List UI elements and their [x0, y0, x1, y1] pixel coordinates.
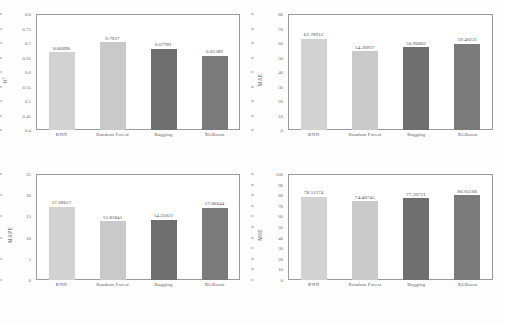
bar-cell: 78.51374 — [288, 174, 339, 280]
y-tickmark-mae-0 — [251, 130, 255, 131]
y-tick-mae-8: 80 — [278, 12, 283, 17]
y-tick-r2-0: 0.4 — [25, 128, 31, 133]
y-tick-mape-0: 0 — [29, 278, 31, 283]
panel-grid: R2 0.40.450.50.550.60.650.70.750.8 0.668… — [0, 0, 505, 310]
x-tick-label-xgboost: XGBoost — [442, 132, 493, 146]
y-tickmark-r2-7 — [0, 28, 2, 29]
y-tick-r2-5: 0.65 — [23, 55, 31, 60]
bar-cell: 0.66898 — [36, 14, 87, 130]
bar-value-label: 56.96863 — [406, 41, 426, 46]
y-tick-r2-3: 0.55 — [23, 84, 31, 89]
y-tickmark-r2-3 — [0, 86, 2, 87]
bar-value-label: 17.28657 — [52, 200, 72, 205]
y-tick-mape-3: 15 — [26, 214, 31, 219]
y-tick-r2-6: 0.7 — [25, 41, 31, 46]
bar-value-label: 17.06644 — [205, 201, 225, 206]
bar-mape-0: 17.28657 — [49, 207, 75, 280]
bar-mae-0: 62.78912 — [301, 39, 327, 130]
y-tickmark-mape-4 — [0, 195, 2, 196]
x-tick-label-xgboost: XGBoost — [442, 282, 493, 296]
y-tickmark-r2-8 — [0, 14, 2, 15]
bar-value-label: 14.23021 — [154, 213, 174, 218]
y-tick-r2-8: 0.8 — [25, 12, 31, 17]
bar-cell: 0.7027 — [87, 14, 138, 130]
y-tickmark-mae-3 — [251, 86, 255, 87]
chart-panel-mape: MAPE 0510152025 17.2865713.8584114.23021… — [0, 160, 252, 310]
y-tick-mae-6: 60 — [278, 41, 283, 46]
bar-mae-3: 59.40231 — [454, 44, 480, 130]
bar-value-label: 80.05106 — [458, 189, 478, 194]
bar-cell: 56.96863 — [391, 14, 442, 130]
bar-cell: 17.28657 — [36, 174, 87, 280]
chart-panel-r2: R2 0.40.450.50.550.60.650.70.750.8 0.668… — [0, 0, 252, 160]
x-tick-label-random-forest: Random Forest — [339, 132, 390, 146]
x-tick-label-bagging: Bagging — [391, 282, 442, 296]
x-axis-labels-mae: KNNRandom ForestBaggingXGBoost — [288, 132, 493, 146]
y-tickmark-mape-0 — [0, 280, 2, 281]
plot-area-mae: 01020304050607080 62.7891254.3093756.968… — [288, 14, 493, 130]
bar-mse-1: 74.40745 — [352, 201, 378, 280]
y-tick-mae-3: 30 — [278, 84, 283, 89]
bar-value-label: 0.65589 — [206, 49, 223, 54]
bar-value-label: 0.7027 — [105, 36, 119, 41]
y-tick-mse-5: 50 — [278, 225, 283, 230]
y-tick-mse-3: 30 — [278, 246, 283, 251]
y-tickmark-mape-1 — [0, 258, 2, 259]
bar-mape-3: 17.06644 — [202, 208, 228, 280]
bar-series-mae: 62.7891254.3093756.9686359.40231 — [288, 14, 493, 130]
y-tickmark-mae-2 — [251, 101, 255, 102]
chart-panel-mae: MAE 01020304050607080 62.7891254.3093756… — [252, 0, 505, 160]
y-tickmark-r2-2 — [0, 101, 2, 102]
y-tick-mse-6: 60 — [278, 214, 283, 219]
bar-mse-2: 77.20721 — [403, 198, 429, 280]
y-tick-mse-7: 70 — [278, 203, 283, 208]
y-tickmark-mae-5 — [251, 57, 255, 58]
x-tick-label-random-forest: Random Forest — [87, 132, 138, 146]
figure-canvas: R2 0.40.450.50.550.60.650.70.750.8 0.668… — [0, 0, 505, 324]
y-tickmark-mse-1 — [251, 269, 255, 270]
y-tick-mse-2: 20 — [278, 256, 283, 261]
x-tick-label-xgboost: XGBoost — [189, 132, 240, 146]
y-tickmark-r2-4 — [0, 72, 2, 73]
bar-mape-2: 14.23021 — [151, 220, 177, 280]
y-tick-mse-9: 90 — [278, 182, 283, 187]
y-tick-mape-5: 25 — [26, 172, 31, 177]
y-tickmark-r2-1 — [0, 115, 2, 116]
bar-r2-0: 0.66898 — [49, 52, 75, 130]
y-tick-mae-2: 20 — [278, 99, 283, 104]
y-tickmark-mae-7 — [251, 28, 255, 29]
y-tickmark-mape-2 — [0, 237, 2, 238]
bar-value-label: 62.78912 — [304, 32, 324, 37]
y-tickmark-mse-0 — [251, 280, 255, 281]
y-tick-mse-10: 100 — [276, 172, 283, 177]
y-tickmark-mape-3 — [0, 216, 2, 217]
x-tick-label-bagging: Bagging — [138, 132, 189, 146]
bar-cell: 0.67991 — [138, 14, 189, 130]
y-tickmark-mape-5 — [0, 174, 2, 175]
y-tickmark-mae-8 — [251, 14, 255, 15]
y-tick-mse-1: 10 — [278, 267, 283, 272]
x-tick-label-knn: KNN — [288, 282, 339, 296]
y-tick-mape-1: 5 — [29, 256, 31, 261]
y-tick-mae-1: 10 — [278, 113, 283, 118]
plot-area-mse: 0102030405060708090100 78.5137474.407457… — [288, 174, 493, 280]
y-tick-mae-0: 0 — [281, 128, 283, 133]
bar-value-label: 77.20721 — [406, 192, 426, 197]
plot-area-r2: 0.40.450.50.550.60.650.70.750.8 0.668980… — [36, 14, 240, 130]
y-tickmark-r2-5 — [0, 57, 2, 58]
x-tick-label-knn: KNN — [36, 282, 87, 296]
bar-mae-2: 56.96863 — [403, 47, 429, 130]
bar-cell: 0.65589 — [189, 14, 240, 130]
y-tickmark-mse-6 — [251, 216, 255, 217]
y-tickmark-r2-6 — [0, 43, 2, 44]
bar-cell: 13.85841 — [87, 174, 138, 280]
y-tickmark-mse-8 — [251, 195, 255, 196]
bar-value-label: 74.40745 — [355, 195, 375, 200]
y-tickmark-mae-6 — [251, 43, 255, 44]
y-tick-mse-0: 0 — [281, 278, 283, 283]
x-tick-label-knn: KNN — [36, 132, 87, 146]
bar-series-mape: 17.2865713.8584114.2302117.06644 — [36, 174, 240, 280]
y-tick-mae-4: 40 — [278, 70, 283, 75]
x-axis-labels-mape: KNNRandom ForestBaggingXGBoost — [36, 282, 240, 296]
bar-cell: 14.23021 — [138, 174, 189, 280]
